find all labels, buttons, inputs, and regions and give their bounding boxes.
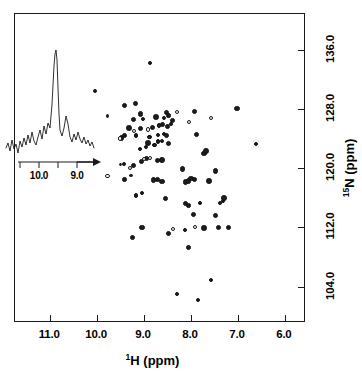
crosspeak xyxy=(128,166,132,170)
crosspeak xyxy=(153,114,159,120)
crosspeak xyxy=(166,231,172,237)
crosspeak xyxy=(213,213,219,219)
crosspeak xyxy=(186,245,192,251)
crosspeak xyxy=(141,117,145,121)
crosspeak xyxy=(192,177,197,182)
crosspeak xyxy=(132,129,136,133)
y-axis-title: 15N (ppm) xyxy=(341,139,357,198)
x-axis-title: 1H (ppm) xyxy=(0,352,305,368)
crosspeak xyxy=(187,120,191,124)
crosspeak xyxy=(196,298,200,302)
nmr-spectrum-figure: 11.010.09.08.07.06.0 104.0112.0120.0128.… xyxy=(0,0,362,386)
inset-axis-tick-label: 10.0 xyxy=(30,170,48,181)
crosspeak xyxy=(122,103,127,108)
crosspeak xyxy=(118,136,122,140)
crosspeak xyxy=(140,191,144,195)
crosspeak xyxy=(171,227,175,231)
y-axis-tick-label: 104.0 xyxy=(324,272,336,300)
x-axis-tick-label: 11.0 xyxy=(39,328,60,340)
crosspeak xyxy=(147,135,152,140)
crosspeak xyxy=(138,126,143,131)
crosspeak xyxy=(206,178,212,184)
crosspeak xyxy=(201,225,206,230)
x-axis-tick-label: 8.0 xyxy=(182,328,197,340)
crosspeak xyxy=(226,225,231,230)
crosspeak xyxy=(122,162,126,166)
crosspeak xyxy=(131,163,136,168)
y-axis-tick xyxy=(298,50,304,51)
y-axis-tick xyxy=(298,168,304,169)
crosspeak xyxy=(131,117,136,122)
crosspeak xyxy=(105,174,109,178)
crosspeak xyxy=(139,225,145,231)
crosspeak xyxy=(134,133,138,137)
x-axis-tick xyxy=(97,315,98,321)
crosspeak xyxy=(130,235,135,240)
x-axis-tick xyxy=(50,315,51,321)
crosspeak xyxy=(146,127,150,131)
crosspeak xyxy=(106,114,110,118)
crosspeak xyxy=(170,118,175,123)
crosspeak xyxy=(221,195,227,201)
crosspeak xyxy=(138,147,142,151)
crosspeak xyxy=(164,133,170,139)
crosspeak xyxy=(175,110,179,114)
y-axis-title-text: N (ppm) xyxy=(342,139,357,188)
x-axis-tick xyxy=(285,315,286,321)
y-axis-tick xyxy=(298,227,304,228)
crosspeak xyxy=(122,133,127,138)
y-axis-tick-label: 136.0 xyxy=(324,35,336,63)
x-axis-tick xyxy=(238,315,239,321)
inset-axis-tick-labels: 10.09.0 xyxy=(4,170,100,186)
x-axis-tick-label: 6.0 xyxy=(276,328,291,340)
x-axis-tick-label: 10.0 xyxy=(85,328,107,340)
x-axis-tick-label: 7.0 xyxy=(229,328,244,340)
crosspeak xyxy=(163,196,168,201)
crosspeak xyxy=(194,132,199,137)
crosspeak xyxy=(203,148,209,154)
crosspeak xyxy=(192,109,197,114)
crosspeak xyxy=(191,212,196,217)
y-axis-title-superscript: 15 xyxy=(341,188,351,197)
crosspeak xyxy=(209,116,213,120)
crosspeak xyxy=(162,116,166,120)
crosspeak xyxy=(193,225,197,229)
crosspeak xyxy=(126,125,131,130)
crosspeak xyxy=(209,278,213,282)
crosspeak xyxy=(213,168,218,173)
y-axis-tick-label: 112.0 xyxy=(324,213,336,240)
crosspeak xyxy=(216,225,221,230)
crosspeak xyxy=(122,177,127,182)
crosspeak xyxy=(183,228,187,232)
inset-axis-tick-label: 9.0 xyxy=(70,170,83,181)
y-axis-tick-label: 128.0 xyxy=(324,94,336,122)
x-axis-tick-label: 9.0 xyxy=(135,328,150,340)
arrow-head xyxy=(93,158,101,166)
x-axis-tick xyxy=(191,315,192,321)
crosspeak xyxy=(133,101,138,106)
y-axis-tick xyxy=(298,109,304,110)
crosspeak xyxy=(134,193,138,197)
x-axis-title-text: H (ppm) xyxy=(130,353,179,368)
y-axis-tick-label: 120.0 xyxy=(324,153,336,181)
crosspeak xyxy=(148,156,152,160)
crosspeak xyxy=(160,139,164,143)
crosspeak xyxy=(166,141,171,146)
crosspeak xyxy=(175,292,179,296)
crosspeak xyxy=(148,61,152,65)
crosspeak xyxy=(159,179,164,184)
crosspeak xyxy=(254,142,258,146)
crosspeak xyxy=(234,106,239,111)
crosspeak xyxy=(145,140,151,146)
crosspeak xyxy=(129,174,133,178)
crosspeak xyxy=(156,133,160,137)
crosspeak xyxy=(150,125,155,130)
crosspeak xyxy=(138,111,143,116)
crosspeak xyxy=(198,201,202,205)
arrow-right-icon xyxy=(76,155,102,169)
inset-trace-line xyxy=(6,50,94,153)
crosspeak xyxy=(180,166,185,171)
x-axis-tick xyxy=(144,315,145,321)
y-axis-tick xyxy=(298,287,304,288)
crosspeak xyxy=(159,157,165,163)
